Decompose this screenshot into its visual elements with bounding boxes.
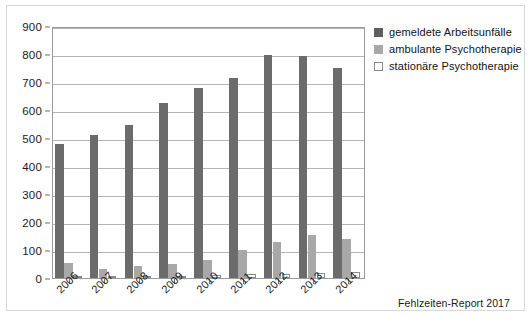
legend-item: ambulante Psychotherapie — [374, 43, 524, 55]
bar-group — [90, 28, 117, 278]
legend-swatch-icon — [374, 45, 383, 54]
y-axis-tick-mark — [45, 167, 50, 168]
bar — [264, 55, 273, 278]
y-axis-tick-mark — [45, 111, 50, 112]
bar-group — [299, 28, 326, 278]
chart-figure: 0100200300400500600700800900 20062007200… — [0, 0, 532, 329]
bar — [90, 135, 99, 278]
chart-legend: gemeldete Arbeitsunfälleambulante Psycho… — [374, 26, 524, 77]
bar — [125, 125, 134, 278]
y-axis-tick-label: 0 — [35, 273, 42, 285]
y-axis: 0100200300400500600700800900 — [0, 27, 50, 279]
y-axis-tick-mark — [45, 83, 50, 84]
y-axis-tick-mark — [45, 279, 50, 280]
y-axis-tick-label: 300 — [22, 189, 42, 201]
y-axis-tick-label: 900 — [22, 21, 42, 33]
bar-group — [125, 28, 152, 278]
source-note: Fehlzeiten-Report 2017 — [398, 297, 510, 309]
bar — [194, 88, 203, 278]
y-axis-tick-label: 600 — [22, 105, 42, 117]
y-axis-tick-label: 400 — [22, 161, 42, 173]
y-axis-tick-label: 800 — [22, 49, 42, 61]
x-axis: 200620072008200920102011201220132014 — [52, 279, 365, 325]
y-axis-tick-mark — [45, 27, 50, 28]
legend-item: stationäre Psychotherapie — [374, 60, 524, 72]
legend-swatch-icon — [374, 62, 383, 71]
bar-group — [229, 28, 256, 278]
plot-area — [52, 27, 365, 279]
y-axis-tick-mark — [45, 139, 50, 140]
bar-group — [333, 28, 360, 278]
y-axis-tick-mark — [45, 251, 50, 252]
bar-group — [264, 28, 291, 278]
y-axis-tick-mark — [45, 55, 50, 56]
legend-label: gemeldete Arbeitsunfälle — [389, 26, 512, 38]
y-axis-tick-label: 200 — [22, 217, 42, 229]
y-axis-tick-label: 100 — [22, 245, 42, 257]
legend-item: gemeldete Arbeitsunfälle — [374, 26, 524, 38]
y-axis-tick-mark — [45, 195, 50, 196]
bar-group — [55, 28, 82, 278]
bar-series-container — [53, 28, 364, 278]
bar — [229, 78, 238, 278]
bar — [159, 103, 168, 278]
bar — [333, 68, 342, 278]
y-axis-tick-label: 700 — [22, 77, 42, 89]
y-axis-tick-label: 500 — [22, 133, 42, 145]
y-axis-tick-mark — [45, 223, 50, 224]
legend-label: ambulante Psychotherapie — [389, 43, 522, 55]
legend-label: stationäre Psychotherapie — [389, 60, 519, 72]
bar-group — [194, 28, 221, 278]
bar — [55, 144, 64, 278]
bar-group — [159, 28, 186, 278]
bar — [299, 56, 308, 278]
legend-swatch-icon — [374, 28, 383, 37]
